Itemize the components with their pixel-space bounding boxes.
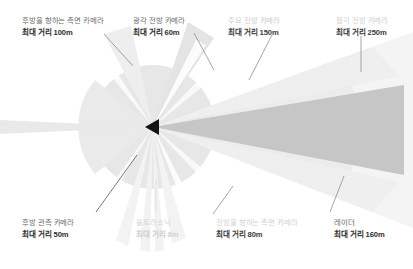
sensor-range: 최대 거리 60m (133, 27, 185, 38)
sensor-range: 최대 거리 8m (136, 229, 178, 240)
sensor-range: 최대 거리 50m (22, 229, 74, 240)
sensor-name: 광각 전방 카메라 (133, 16, 185, 27)
sensor-name: 레이더 (334, 218, 385, 229)
sensor-name: 울트라소닉 (136, 218, 178, 229)
label-main-forward-camera: 주요 전방 카메라 최대 거리 150m (228, 16, 280, 38)
sensor-range: 최대 거리 160m (334, 229, 385, 240)
sensor-name: 전방을 향하는 측면 카메라 (216, 218, 298, 229)
sensor-name: 후방 관측 카메라 (22, 218, 74, 229)
sensor-name: 주요 전방 카메라 (228, 16, 280, 27)
sensor-range: 최대 거리 250m (336, 27, 388, 38)
sensor-name: 협각 전방 카메라 (336, 16, 388, 27)
label-rear-view-camera: 후방 관측 카메라 최대 거리 50m (22, 218, 74, 240)
label-wide-forward-camera: 광각 전방 카메라 최대 거리 60m (133, 16, 185, 38)
sensor-range: 최대 거리 80m (216, 229, 298, 240)
label-rear-facing-side-camera: 후방을 향하는 측면 카메라 최대 거리 100m (22, 16, 104, 38)
label-narrow-forward-camera: 협각 전방 카메라 최대 거리 250m (336, 16, 388, 38)
sensor-name: 후방을 향하는 측면 카메라 (22, 16, 104, 27)
label-ultrasonic: 울트라소닉 최대 거리 8m (136, 218, 178, 240)
sensor-range: 최대 거리 100m (22, 27, 104, 38)
label-radar: 레이더 최대 거리 160m (334, 218, 385, 240)
label-forward-facing-side-camera: 전방을 향하는 측면 카메라 최대 거리 80m (216, 218, 298, 240)
sensor-range: 최대 거리 150m (228, 27, 280, 38)
